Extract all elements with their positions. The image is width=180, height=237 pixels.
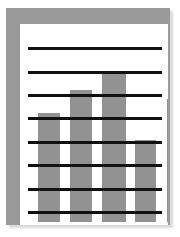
- gridline-8: [28, 211, 162, 214]
- gridline-3: [28, 94, 162, 97]
- bar-2: [70, 90, 92, 222]
- gridline-2: [28, 71, 162, 74]
- bar-5: [167, 99, 168, 222]
- gridline-7: [28, 188, 162, 191]
- bar-4: [135, 140, 156, 222]
- bar-chart-icon: [0, 0, 180, 237]
- gridline-1: [28, 47, 162, 50]
- plot-area: [20, 24, 168, 225]
- bar-1: [38, 113, 60, 222]
- gridline-4: [28, 117, 162, 120]
- chart-frame-border: [6, 8, 170, 225]
- chart-canvas: [20, 24, 168, 225]
- gridline-6: [28, 164, 162, 167]
- gridline-5: [28, 141, 162, 144]
